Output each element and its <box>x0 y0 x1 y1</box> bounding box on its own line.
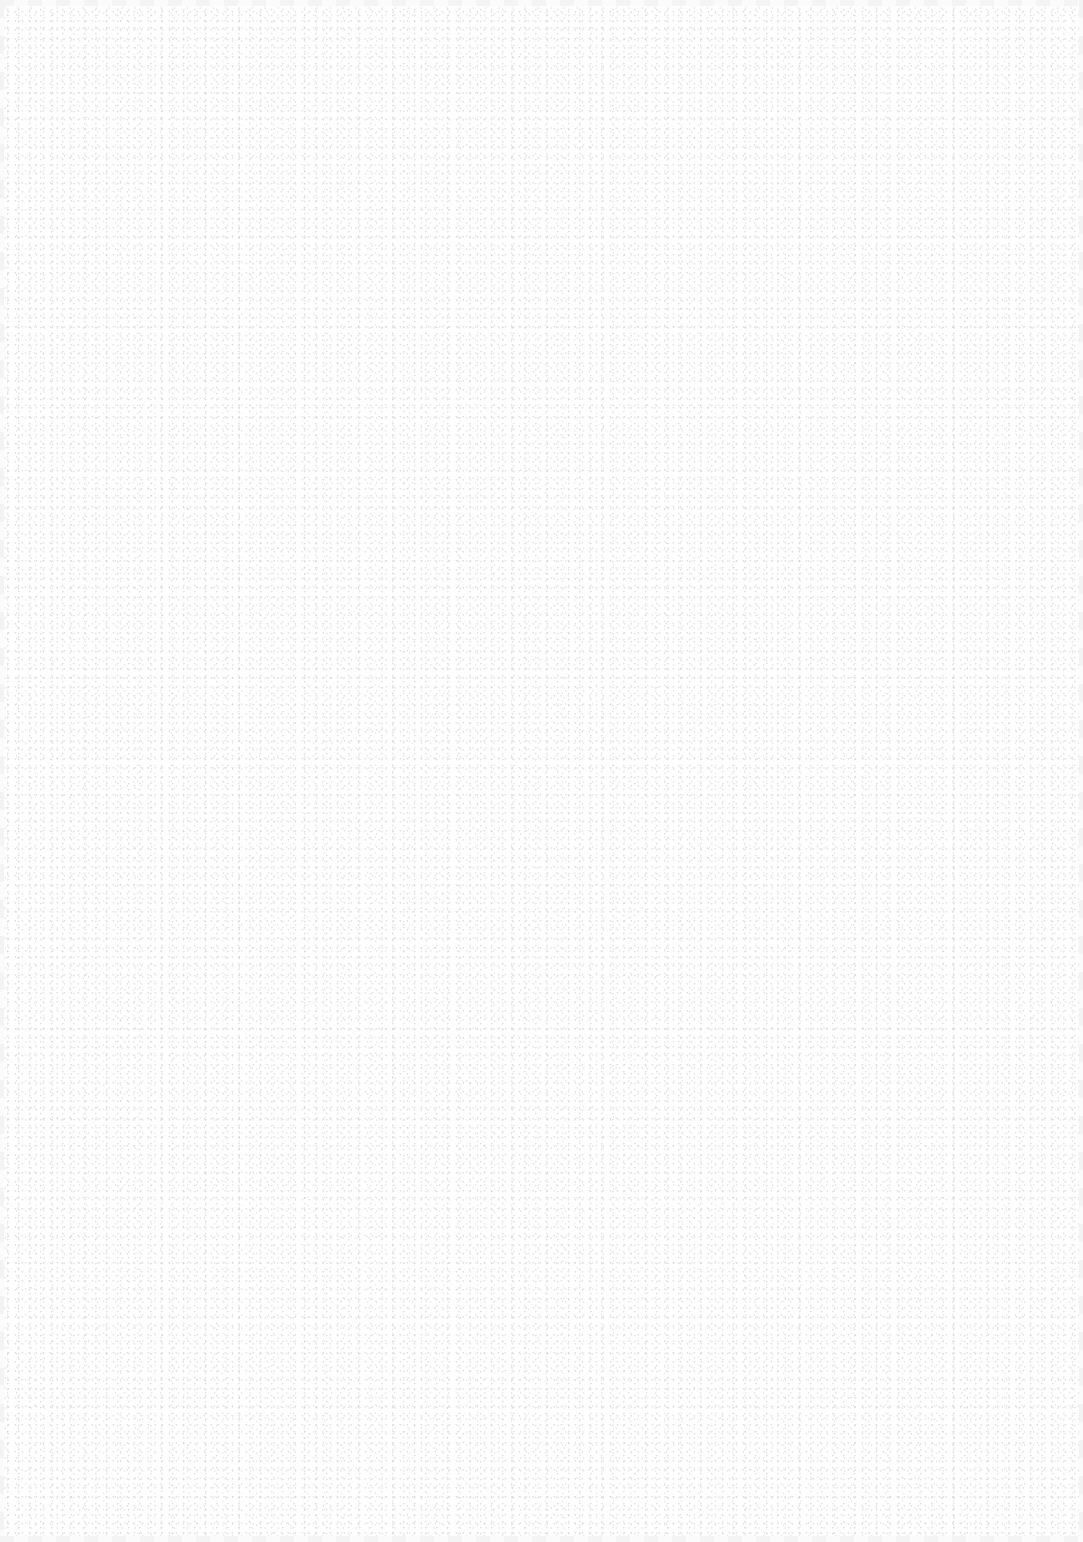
blank-paper-page <box>0 0 1083 1542</box>
page-top-edge <box>0 0 1083 6</box>
page-left-edge <box>0 0 4 1542</box>
page-right-edge <box>1079 0 1083 1542</box>
page-bottom-edge <box>0 1536 1083 1542</box>
